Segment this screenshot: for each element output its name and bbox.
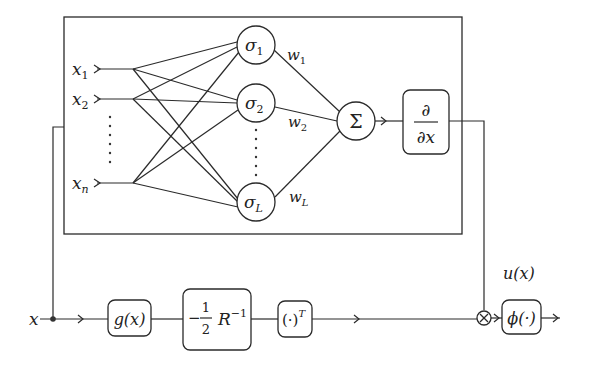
input-to-hidden-connections [133,42,239,207]
weight-wL-label: wL [289,188,309,208]
phi-block-label: ϕ(·) [507,309,535,328]
r-sign: − [188,309,201,327]
junction-dot [50,316,56,322]
input-lines [94,65,133,187]
input-xn-label: xn [72,173,89,196]
state-x-label: x [29,309,39,329]
inputs-ellipsis [109,116,111,163]
r-frac-den: 2 [202,322,210,337]
weight-w1-label: w1 [287,46,306,66]
g-block-label: g(x) [114,310,146,329]
derivative-numerator: ∂ [422,100,431,120]
r-frac-num: 1 [202,300,210,315]
output-u-label: u(x) [503,264,535,283]
derivative-denominator: ∂x [417,127,436,147]
hidden-ellipsis [255,129,257,176]
sum-symbol: Σ [349,110,362,132]
diagram-canvas: x1 x2 xn σ1 σ2 σL w1 w2 wL Σ ∂ ∂x x g(x)… [0,0,589,367]
input-x2-label: x2 [72,89,89,112]
input-x1-label: x1 [72,59,89,82]
weight-w2-label: w2 [288,113,307,133]
derivative-to-multiply-line [449,121,484,310]
state-feedback-line [53,127,64,319]
